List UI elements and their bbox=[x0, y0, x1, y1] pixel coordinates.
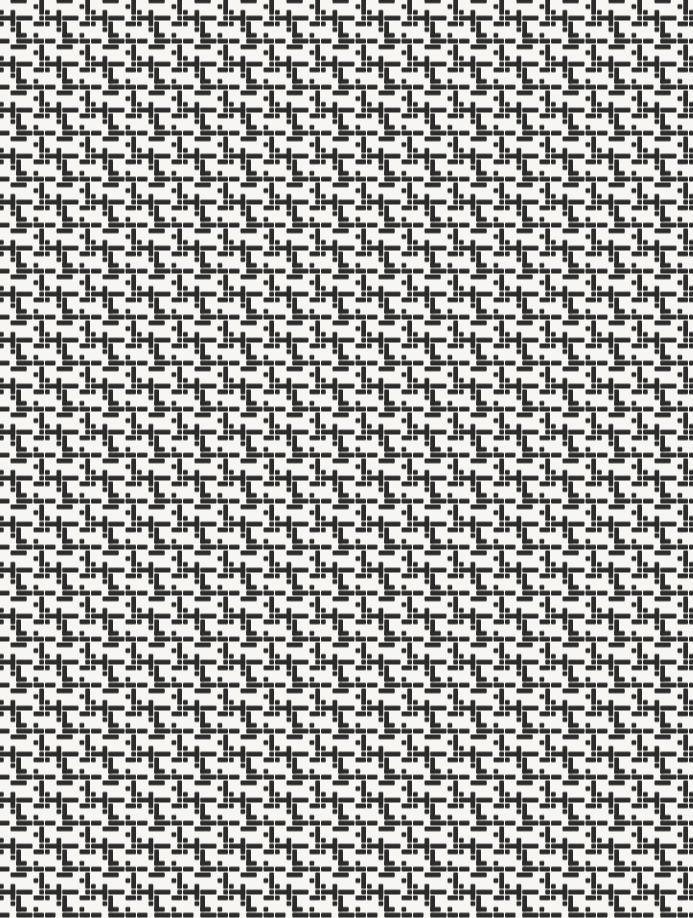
basket-weave-texture bbox=[0, 0, 693, 918]
woven-pattern-canvas bbox=[0, 0, 693, 918]
pattern-fill bbox=[0, 0, 693, 918]
